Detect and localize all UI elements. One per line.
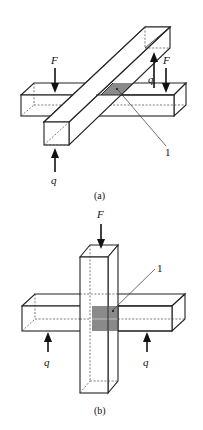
callout-label-b: 1 <box>157 262 163 274</box>
svg-text:q: q <box>51 174 57 186</box>
svg-text:F: F <box>50 54 58 66</box>
callout-label-a: 1 <box>165 146 171 158</box>
svg-text:F: F <box>162 54 170 66</box>
figure-a: 1 F F q q (a) <box>21 27 186 202</box>
force-arrow-top-b: F <box>96 208 105 249</box>
caption-b: (b) <box>94 405 106 417</box>
svg-text:q: q <box>44 356 50 368</box>
reaction-arrow-bottom-a: q <box>51 148 59 186</box>
figure-b: 1 F q q (b) <box>22 208 185 417</box>
contact-zone-b <box>92 306 118 331</box>
svg-text:F: F <box>96 208 104 220</box>
reaction-arrow-left-b: q <box>44 332 52 368</box>
beam-crossing-diagram: 1 F F q q (a) <box>0 0 203 430</box>
caption-a: (a) <box>94 190 105 202</box>
svg-text:q: q <box>148 73 154 85</box>
reaction-arrow-right-b: q <box>143 332 151 368</box>
svg-text:q: q <box>143 356 149 368</box>
